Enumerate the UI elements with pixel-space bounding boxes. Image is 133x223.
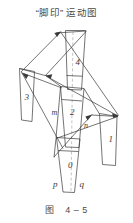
label-step2: 2 [70,107,75,117]
label-step1: 1 [109,134,114,144]
label-p: p [52,179,58,189]
arrow-2-right-to-1 [84,89,100,115]
figure-caption-label: 图 [45,205,54,215]
label-n: n [84,121,88,130]
figure-title: “脚印” 运动图 [0,5,133,19]
label-step4: 4 [76,57,81,67]
arrow-4-to-1 [61,33,119,116]
figure-caption-number: 4 – 5 [65,205,88,215]
figure-caption: 图4 – 5 [0,203,133,216]
figure-root: “脚印” 运动图 [0,0,133,223]
footprint-motion-diagram: 4 3 2 m n 1 0 p q [0,20,133,200]
label-step3: 3 [24,92,30,102]
label-q: q [80,179,85,189]
arrow-3-to-4 [21,32,61,73]
label-step0: 0 [68,160,73,170]
label-m: m [52,108,58,117]
